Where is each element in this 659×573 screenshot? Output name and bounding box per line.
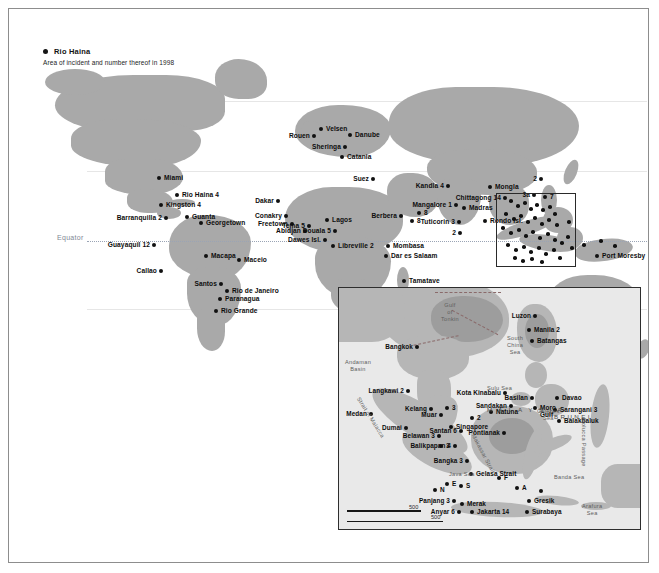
incident-label: Rio Haina 4 [182,191,219,198]
incident-point [152,243,157,248]
incident-label: Barranquilla 2 [117,214,162,221]
inset-water-label: Sulu Sea [487,385,512,392]
scale-bar-bottom: 500 [347,519,443,522]
incident-label: Douala 5 [303,227,331,234]
incident-label: Kandla 4 [416,182,444,189]
inset-incident-label: N [440,486,445,493]
inset-incident-point [525,510,529,514]
incident-point [159,269,164,274]
inset-incident-label: Dumai [382,424,402,431]
inset-region-label: BRUNEI [554,413,592,420]
inset-water-label: Banda Sea [554,474,584,481]
incident-label: Danube [355,131,380,138]
inset-incident-label: Merak [467,500,486,507]
inset-incident-label: Basilan [505,394,528,401]
incident-label: Dawes Isl. [288,236,321,243]
incident-label: Georgetown [206,219,245,226]
incident-label: Dakar [255,197,274,204]
incident-label: Miami [164,174,183,181]
inset-incident-point [465,459,469,463]
inset-incident-point [470,510,474,514]
incident-label: 2 [533,175,537,182]
incident-label: Maceio [244,256,267,263]
inset-incident-label: Gresik [534,497,555,504]
incident-label: Paranagua [225,295,260,302]
legend-dot-icon [43,49,48,54]
inset-incident-label: Davao [562,394,582,401]
map-legend: Rio Haina Area of incident and number th… [43,47,273,66]
inset-incident-label: Bangkok [385,343,413,350]
inset-incident-point [445,482,449,486]
inset-incident-label: Muar [421,411,437,418]
legend-caption: Area of incident and number thereof in 1… [43,59,273,66]
incident-label: Madras [469,204,493,211]
inset-region-label: M A L A Y S I A [487,406,564,413]
inset-incident-point [433,488,437,492]
inset-incident-point [404,426,408,430]
inset-incident-label: Santan 6 [430,427,457,434]
incident-point [175,193,180,198]
incident-label: Mombasa [393,242,424,249]
inset-selection-rectangle [496,193,576,267]
incident-label: Kingston 4 [166,201,201,208]
incident-label: Mangalore 1 [412,201,452,208]
equator-label: Equator [57,234,84,241]
inset-incident-label: Panjang 3 [419,497,450,504]
incident-point [276,199,281,204]
inset-incident-point [470,416,474,420]
inset-incident-point [406,389,410,393]
incident-label: Lagos [332,216,352,223]
scale-bar-top-value: 500 [409,504,418,510]
inset-incident-label: A [522,484,527,491]
incident-point [386,244,391,249]
incident-point [458,231,463,236]
incident-point [599,239,603,243]
incident-label: Port Moresby [602,252,645,259]
incident-label: Rio Grande [221,307,258,314]
inset-incident-label: S [466,482,470,489]
inset-incident-point [555,396,559,400]
incident-label: Rouen [289,132,310,139]
inset-incident-point [415,345,419,349]
inset-incident-label: Langkawi 2 [369,387,404,394]
inset-incident-point [459,429,463,433]
incident-label: Libreville 2 [338,242,374,249]
incident-label: Tamatave [409,277,440,284]
incident-label: Dar es Salaam [391,252,437,259]
map-page: Equator Rio Haina Area of incident and n… [0,0,659,573]
inset-incident-label: E [452,480,456,487]
incident-label: Tuticorin 3 [421,218,455,225]
inset-incident-point [533,314,537,318]
inset-incident-point [497,476,501,480]
incident-label: Macapa [211,252,236,259]
inset-incident-point [539,489,543,493]
incident-point [582,243,586,247]
inset-incident-label: Jakarta 14 [477,508,509,515]
incident-label: Tema 5 [282,222,305,229]
incident-point [164,216,169,221]
inset-water-label: ArafuraSea [582,503,602,517]
incident-point [483,219,488,224]
incident-label: Conakry [255,212,282,219]
incident-label: Sheringa [312,143,341,150]
inset-water-label: AndamanBasin [345,359,371,373]
incident-label: Rio de Janeiro [232,287,279,294]
inset-incident-label: F [504,474,508,481]
inset-incident-label: Luzon [512,312,531,319]
scale-bar-bottom-value: 500 [431,514,440,520]
incident-label: Berbera [371,212,397,219]
inset-incident-label: 2 [477,414,481,421]
inset-incident-point [459,484,463,488]
incident-label: Santos [194,280,217,287]
scale-bar-top: 500 [347,510,421,512]
inset-water-label: Molucca Passage [580,418,587,467]
inset-incident-label: Surabaya [532,508,562,515]
inset-incident-point [453,444,457,448]
incident-label: 2 [452,229,456,236]
incident-label: Mongla [495,183,519,190]
legend-sample-label: Rio Haina [54,47,90,56]
incident-point [340,155,345,160]
incident-point [410,219,415,224]
inset-incident-point [530,396,534,400]
inset-incident-label: Batangas [537,337,567,344]
